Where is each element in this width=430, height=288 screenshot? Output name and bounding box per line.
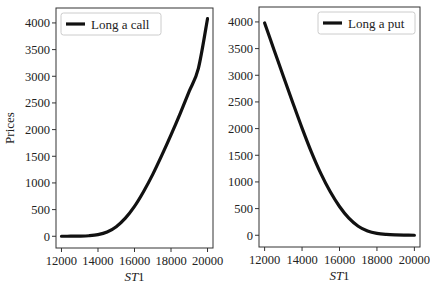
legend-label: Long a call xyxy=(91,17,150,32)
y-tick-label: 4000 xyxy=(228,15,253,29)
y-tick-label: 1500 xyxy=(25,150,50,164)
y-tick-label: 1500 xyxy=(228,149,253,163)
x-axis-label: ST1 xyxy=(329,268,349,283)
y-tick-label: 0 xyxy=(247,229,253,243)
y-tick-label: 2000 xyxy=(25,123,50,137)
y-tick-label: 3500 xyxy=(228,42,253,56)
legend: Long a put xyxy=(318,12,415,34)
axes-frame xyxy=(56,8,213,248)
x-tick-label: 14000 xyxy=(82,254,113,268)
x-tick-label: 12000 xyxy=(249,253,280,267)
price-curve xyxy=(265,23,415,235)
y-tick-label: 2000 xyxy=(228,122,253,136)
x-tick-label: 18000 xyxy=(361,253,392,267)
y-tick-label: 0 xyxy=(44,230,50,244)
chart-figure: 0500100015002000250030003500400012000140… xyxy=(0,0,430,288)
axes-frame xyxy=(259,7,420,247)
y-tick-label: 3000 xyxy=(228,69,253,83)
y-tick-label: 1000 xyxy=(228,175,253,189)
y-tick-label: 2500 xyxy=(228,95,253,109)
y-tick-label: 1000 xyxy=(25,176,50,190)
y-tick-label: 4000 xyxy=(25,16,50,30)
y-tick-label: 3000 xyxy=(25,70,50,84)
y-tick-label: 2500 xyxy=(25,96,50,110)
x-tick-label: 20000 xyxy=(399,253,430,267)
x-tick-label: 14000 xyxy=(286,253,317,267)
x-axis-label: ST1 xyxy=(124,269,144,284)
x-tick-label: 16000 xyxy=(119,254,150,268)
y-axis-label: Prices xyxy=(2,112,17,144)
legend: Long a call xyxy=(61,13,161,35)
call-price-panel: 0500100015002000250030003500400012000140… xyxy=(2,8,223,284)
x-tick-label: 18000 xyxy=(155,254,186,268)
y-tick-label: 3500 xyxy=(25,43,50,57)
put-price-panel: 0500100015002000250030003500400012000140… xyxy=(228,7,430,283)
price-curve xyxy=(61,19,207,237)
y-tick-label: 500 xyxy=(234,202,253,216)
legend-label: Long a put xyxy=(348,16,405,31)
x-tick-label: 16000 xyxy=(324,253,355,267)
x-tick-label: 20000 xyxy=(192,254,223,268)
y-tick-label: 500 xyxy=(31,203,50,217)
x-tick-label: 12000 xyxy=(46,254,77,268)
